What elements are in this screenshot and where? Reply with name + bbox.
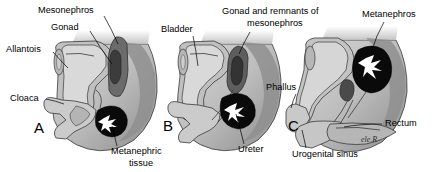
label-rectum: Rectum — [385, 118, 417, 128]
panel-b-bladder-neck-inner — [181, 55, 185, 70]
label-metanephric-tissue-line-1: Metanephric — [111, 146, 162, 156]
panel-b — [168, 30, 281, 151]
urogenital-development-figure: Mesonephros Gonad Allantois Cloaca Metan… — [0, 0, 439, 172]
panel-c-bladder-neck — [305, 46, 315, 70]
label-gonad-remnants-line-2: mesonephros — [247, 18, 303, 28]
label-gonad-remnants-line-1: Gonad and remnants of — [222, 6, 319, 16]
label-urogenital-sinus: Urogenital sinus — [292, 149, 358, 159]
label-mesonephros: Mesonephros — [38, 5, 94, 15]
figure-canvas: Mesonephros Gonad Allantois Cloaca Metan… — [0, 0, 439, 172]
label-metanephros: Metanephros — [362, 9, 416, 19]
label-gonad: Gonad — [51, 22, 79, 32]
panel-letter-b: B — [163, 117, 173, 134]
panel-a-gonad — [110, 50, 121, 84]
panel-letter-a: A — [34, 119, 44, 136]
panel-b-gonad — [231, 56, 243, 85]
label-bladder: Bladder — [161, 24, 193, 34]
label-ureter: Ureter — [238, 144, 264, 154]
artist-signature: ele.R — [361, 135, 377, 144]
panel-letter-c: C — [288, 117, 299, 134]
label-allantois: Allantois — [6, 44, 41, 54]
label-phallus: Phallus — [266, 82, 297, 92]
panel-c-mesonephros-remnant — [340, 80, 354, 102]
label-metanephric-tissue-line-2: tissue — [129, 158, 153, 168]
label-cloaca: Cloaca — [10, 93, 39, 103]
